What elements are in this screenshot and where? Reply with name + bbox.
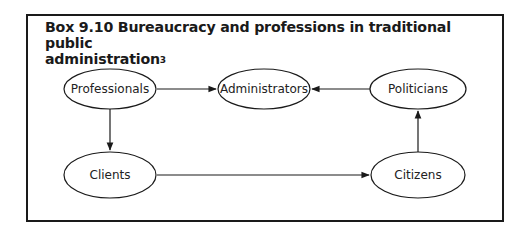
node-professionals: Professionals (64, 69, 156, 109)
node-label: Politicians (388, 82, 448, 96)
flow-diagram: Professionals Administrators Politicians… (0, 0, 528, 233)
node-label: Citizens (394, 168, 441, 182)
node-label: Professionals (71, 82, 149, 96)
node-politicians: Politicians (370, 69, 466, 109)
node-administrators: Administrators (218, 69, 310, 109)
node-citizens: Citizens (371, 152, 465, 198)
node-label: Clients (90, 168, 131, 182)
node-clients: Clients (64, 152, 156, 198)
node-label: Administrators (220, 82, 308, 96)
